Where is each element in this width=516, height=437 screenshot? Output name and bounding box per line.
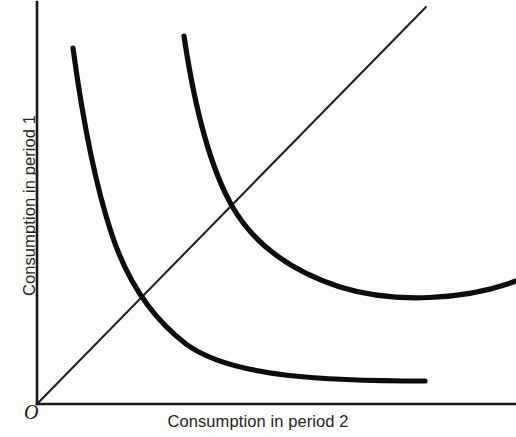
indifference-curve-figure: O Consumption in period 2 Consumption in… [0,0,516,437]
indifference-curve-lower [73,48,425,381]
indifference-curve-upper [184,36,516,298]
plot-canvas [0,0,516,437]
y-axis-label: Consumption in period 1 [20,81,39,331]
x-axis-label: Consumption in period 2 [0,412,516,431]
